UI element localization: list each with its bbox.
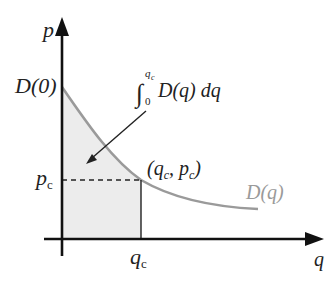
qc-label: qc [130, 244, 147, 271]
consumer-area-shade [62, 87, 141, 239]
point-label: (qc, pc) [147, 157, 201, 182]
y-axis-arrow-icon [55, 17, 69, 36]
x-axis-label: q [314, 248, 324, 271]
integral-pointer-line [92, 111, 146, 158]
y-axis-label: p [41, 17, 54, 42]
integral-lower-limit: 0 [145, 95, 151, 107]
curve-label: D(q) [245, 181, 284, 204]
demand-curve-diagram: p q D(0) ∫ 0 q c D(q) dq (qc, pc) pc qc … [0, 0, 331, 286]
pc-label: pc [34, 165, 53, 192]
integral-sign: ∫ [134, 79, 145, 109]
x-axis-arrow-icon [305, 232, 324, 246]
integral-body: D(q) dq [157, 79, 221, 102]
d0-label: D(0) [14, 73, 57, 98]
integral-upper-sub: c [151, 73, 155, 82]
